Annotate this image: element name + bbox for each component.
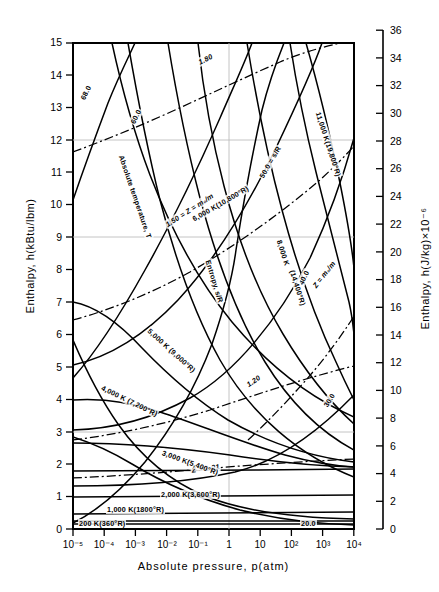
right-axis xyxy=(376,30,383,529)
ytick-left-5: 5 xyxy=(30,361,62,373)
ytick-left-14: 14 xyxy=(24,69,62,81)
xtick-7: 10² xyxy=(274,539,308,550)
ytick-right-9: 18 xyxy=(390,273,402,285)
xtick-1: 10⁻⁴ xyxy=(87,539,121,550)
curve-label-t-200: 200 K(360°R) xyxy=(78,519,126,528)
ytick-right-18: 36 xyxy=(390,24,402,36)
ytick-left-12: 12 xyxy=(24,134,62,146)
ytick-right-3: 6 xyxy=(390,440,396,452)
xtick-4: 10⁻¹ xyxy=(181,539,215,550)
left-axis-ticks xyxy=(66,43,73,529)
ytick-right-17: 34 xyxy=(390,52,402,64)
xtick-0: 10⁻⁵ xyxy=(56,539,90,550)
ytick-right-10: 20 xyxy=(390,246,402,258)
xtick-6: 10 xyxy=(243,539,277,550)
xtick-3: 10⁻² xyxy=(150,539,184,550)
xtick-2: 10⁻³ xyxy=(118,539,152,550)
compressibility-curves xyxy=(73,40,354,478)
ytick-right-13: 26 xyxy=(390,162,402,174)
xtick-5: 1 xyxy=(212,539,246,550)
ytick-right-1: 2 xyxy=(390,495,396,507)
ytick-right-8: 16 xyxy=(390,301,402,313)
y-axis-right-title: Enthalpy, h(J/kg)×10⁻⁶ xyxy=(419,169,432,369)
ytick-left-2: 2 xyxy=(30,458,62,470)
ytick-right-4: 8 xyxy=(390,412,396,424)
curve-label-s-20: 20.0 xyxy=(300,519,317,528)
chart-root: 0 1 2 3 4 5 6 7 8 9 10 11 12 13 14 15 0 … xyxy=(0,0,439,592)
ytick-right-12: 24 xyxy=(390,190,402,202)
y-axis-left-title: Enthalpy, h(kBtu/lbm) xyxy=(24,156,36,356)
ytick-right-11: 22 xyxy=(390,218,402,230)
ytick-right-7: 14 xyxy=(390,329,402,341)
ytick-right-15: 30 xyxy=(390,107,402,119)
xtick-9: 10⁴ xyxy=(337,539,371,550)
ytick-left-3: 3 xyxy=(30,426,62,438)
xtick-8: 10³ xyxy=(306,539,340,550)
ytick-right-6: 12 xyxy=(390,356,402,368)
ytick-left-13: 13 xyxy=(24,101,62,113)
curve-label-t-2000: 2,000 K(3,600°R) xyxy=(160,490,221,499)
ytick-right-2: 4 xyxy=(390,467,396,479)
ytick-left-4: 4 xyxy=(30,393,62,405)
ytick-left-1: 1 xyxy=(30,490,62,502)
ytick-right-5: 10 xyxy=(390,384,402,396)
ytick-left-15: 15 xyxy=(24,36,62,48)
ytick-right-0: 0 xyxy=(390,523,396,535)
ytick-right-16: 32 xyxy=(390,79,402,91)
x-axis-title: Absolute pressure, p(atm) xyxy=(72,560,355,572)
ytick-left-0: 0 xyxy=(30,523,62,535)
curve-label-t-1000: 1,000 K(1800°R) xyxy=(106,505,165,514)
bottom-axis-ticks xyxy=(73,529,354,536)
ytick-right-14: 28 xyxy=(390,135,402,147)
